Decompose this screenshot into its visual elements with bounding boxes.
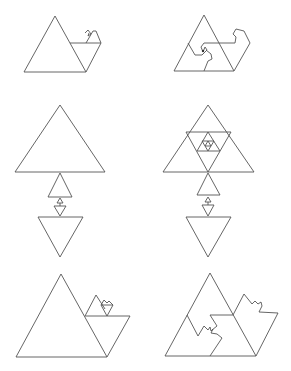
panel-bottom-left xyxy=(16,274,130,357)
small-inverted-triangle xyxy=(101,305,113,316)
panel-top-right xyxy=(174,15,250,71)
jagged-center-edge xyxy=(210,315,217,330)
large-triangle xyxy=(24,16,86,72)
spiral-arm-bottom xyxy=(204,50,212,71)
large-inverted-triangle xyxy=(38,217,83,257)
large-triangle xyxy=(163,105,254,172)
tiny-triangle xyxy=(205,197,211,202)
parallelogram-edge xyxy=(70,43,101,72)
tiny-triangle xyxy=(57,198,63,203)
small-inverted-triangle xyxy=(54,206,66,216)
small-triangle xyxy=(85,295,105,316)
small-triangle xyxy=(197,173,220,195)
jagged-left-piece xyxy=(187,315,222,356)
spiral-arm-left xyxy=(188,43,207,55)
panel-bottom-right xyxy=(165,273,278,356)
small-triangle xyxy=(48,173,72,197)
large-inverted-triangle xyxy=(186,217,231,257)
tiny-hook xyxy=(101,300,113,305)
large-triangle xyxy=(15,105,105,172)
spiral-arm-right xyxy=(201,29,250,71)
panel-middle-left xyxy=(15,105,105,257)
panel-top-left xyxy=(24,16,101,72)
spiral-center xyxy=(202,50,204,52)
jagged-right-piece xyxy=(233,294,278,356)
large-triangle xyxy=(165,273,256,356)
large-triangle xyxy=(16,274,107,357)
hook-shape xyxy=(86,31,101,43)
diagram-canvas xyxy=(0,0,291,371)
small-hook xyxy=(85,30,91,36)
parallelogram-edge xyxy=(85,316,130,357)
innermost-triangle xyxy=(205,141,211,146)
medial-inverted-triangle xyxy=(186,132,231,172)
small-inverted-triangle xyxy=(202,205,214,216)
panel-middle-right xyxy=(163,105,254,257)
